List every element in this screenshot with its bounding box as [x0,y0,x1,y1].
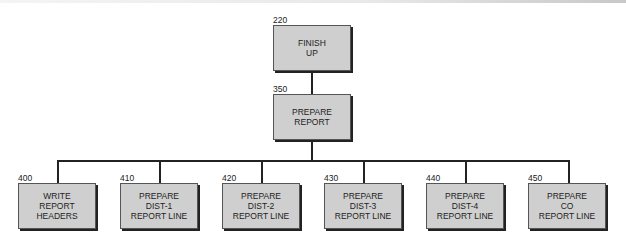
horizontal-bus [57,160,570,162]
node-write-report-headers: WRITE REPORT HEADERS [18,183,96,229]
connector-bus-400 [57,160,59,183]
node-ref-350: 350 [273,84,287,94]
node-prepare-dist1: PREPARE DIST-1 REPORT LINE [120,183,198,229]
node-label: PREPARE REPORT [292,107,332,127]
node-ref-400: 400 [18,173,32,183]
node-prepare-dist2: PREPARE DIST-2 REPORT LINE [222,183,300,229]
node-label: WRITE REPORT HEADERS [36,191,77,221]
page-top-border [0,0,626,3]
node-ref-430: 430 [324,173,338,183]
node-label: FINISH UP [298,38,326,58]
node-prepare-report: PREPARE REPORT [273,94,351,140]
node-finish-up: FINISH UP [273,25,351,71]
connector-350-bus [311,139,313,161]
node-prepare-dist4: PREPARE DIST-4 REPORT LINE [426,183,504,229]
connector-bus-440 [465,160,467,183]
node-ref-440: 440 [426,173,440,183]
node-ref-420: 420 [222,173,236,183]
node-ref-410: 410 [120,173,134,183]
node-label: PREPARE DIST-2 REPORT LINE [233,191,289,221]
connector-bus-450 [568,160,570,183]
node-label: PREPARE CO REPORT LINE [539,191,595,221]
node-prepare-dist3: PREPARE DIST-3 REPORT LINE [324,183,402,229]
connector-220-350 [311,70,313,94]
node-label: PREPARE DIST-3 REPORT LINE [335,191,391,221]
node-ref-450: 450 [528,173,542,183]
connector-bus-420 [261,160,263,183]
connector-bus-430 [363,160,365,183]
node-label: PREPARE DIST-4 REPORT LINE [437,191,493,221]
node-label: PREPARE DIST-1 REPORT LINE [131,191,187,221]
node-prepare-co: PREPARE CO REPORT LINE [528,183,606,229]
node-ref-220: 220 [273,15,287,25]
connector-bus-410 [159,160,161,183]
